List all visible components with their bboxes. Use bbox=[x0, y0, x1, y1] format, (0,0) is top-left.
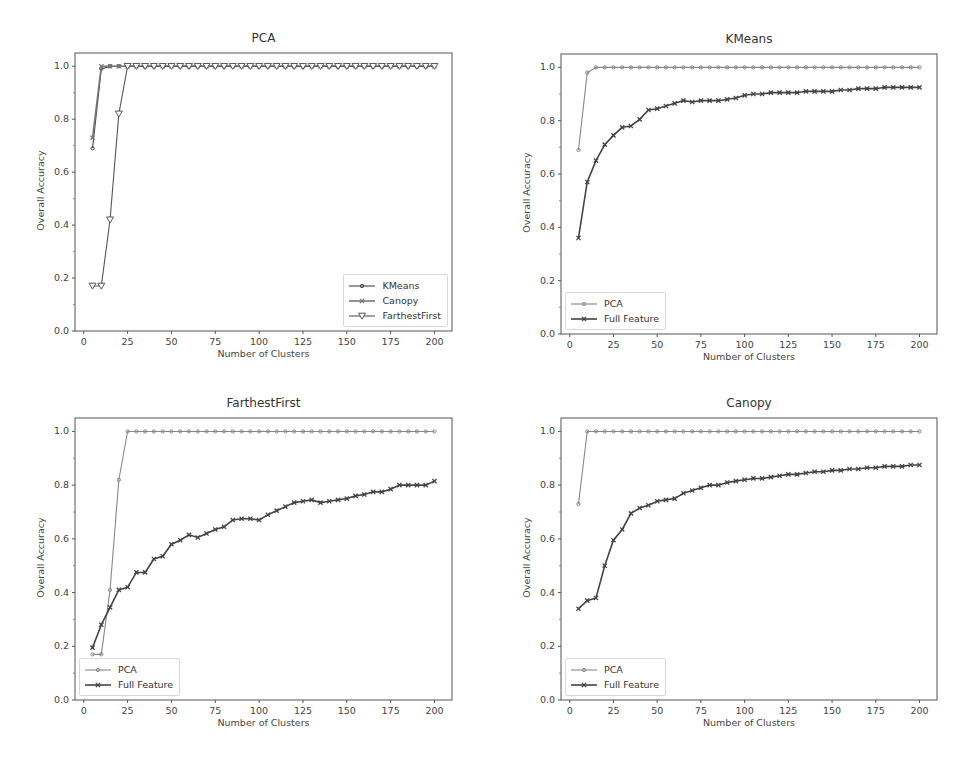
plot-area bbox=[0, 0, 964, 763]
y-axis-label: Overall Accuracy bbox=[521, 498, 532, 618]
x-tick-label: 75 bbox=[686, 705, 716, 716]
x-tick-label: 0 bbox=[555, 705, 585, 716]
chart-title: Canopy bbox=[561, 396, 937, 410]
legend-item: Full Feature bbox=[570, 677, 659, 692]
series-full-feature bbox=[576, 463, 921, 611]
legend-line-icon bbox=[570, 664, 598, 676]
x-tick-label: 200 bbox=[905, 705, 935, 716]
legend-line-icon bbox=[570, 679, 598, 691]
x-tick-label: 100 bbox=[730, 705, 760, 716]
x-tick-label: 50 bbox=[642, 705, 672, 716]
x-tick-label: 150 bbox=[817, 705, 847, 716]
y-tick-label: 0.6 bbox=[533, 533, 555, 544]
chart-panel-canopy: 0.00.20.40.60.81.00255075100125150175200… bbox=[0, 0, 964, 763]
legend-label: Full Feature bbox=[604, 679, 659, 690]
legend-label: PCA bbox=[604, 664, 623, 675]
y-tick-label: 0.8 bbox=[533, 479, 555, 490]
y-tick-label: 0.4 bbox=[533, 587, 555, 598]
x-tick-label: 125 bbox=[773, 705, 803, 716]
y-tick-label: 0.2 bbox=[533, 640, 555, 651]
x-tick-label: 25 bbox=[598, 705, 628, 716]
legend: PCAFull Feature bbox=[565, 658, 666, 696]
y-tick-label: 1.0 bbox=[533, 425, 555, 436]
x-tick-label: 175 bbox=[861, 705, 891, 716]
legend-item: PCA bbox=[570, 662, 659, 677]
x-axis-label: Number of Clusters bbox=[561, 717, 937, 728]
y-tick-label: 0.0 bbox=[533, 694, 555, 705]
